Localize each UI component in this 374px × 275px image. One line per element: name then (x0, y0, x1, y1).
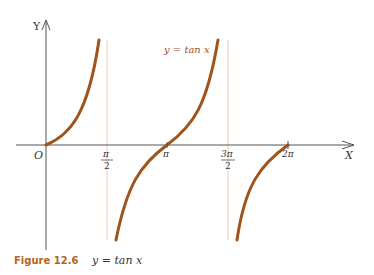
curve-branch-3 (237, 145, 288, 240)
figure-caption-equation: y = tan x (92, 254, 142, 267)
curve-legend: y = tan x (163, 44, 210, 55)
curve-branch-1 (46, 40, 99, 145)
tick-label-3pi-over-2-num: 3π (221, 149, 234, 159)
figure: Y X O π 2 π 3π 2 2π y = tan x Figure 12.… (0, 0, 374, 275)
tan-plot: Y X O π 2 π 3π 2 2π y = tan x (0, 0, 374, 275)
x-axis-label: X (344, 149, 354, 162)
y-axis-label: Y (32, 20, 41, 33)
tick-label-pi: π (162, 149, 170, 159)
tick-label-pi-over-2-num: π (102, 149, 110, 159)
tick-label-2pi: 2π (281, 149, 295, 159)
tick-label-pi-over-2-den: 2 (104, 161, 110, 171)
tick-label-3pi-over-2-den: 2 (225, 161, 231, 171)
curve-branch-2 (116, 40, 218, 240)
figure-label: Figure 12.6 (14, 255, 78, 266)
origin-label: O (34, 149, 43, 162)
